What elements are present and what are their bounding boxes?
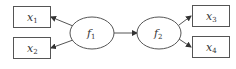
latent-node-f1: f1	[70, 17, 114, 49]
path-diagram: x1 x2 f1 f2 x3 x4	[0, 0, 236, 69]
observed-node-x2: x2	[14, 38, 51, 59]
observed-node-x3: x3	[193, 6, 230, 27]
edge-f1-x1	[51, 17, 73, 26]
edge-f2-x4	[179, 39, 191, 47]
observed-node-x1: x1	[14, 7, 51, 28]
edge-f2-x3	[179, 16, 191, 25]
observed-node-x4: x4	[193, 37, 230, 58]
latent-node-f2: f2	[137, 17, 181, 49]
edge-f1-x2	[51, 40, 73, 48]
